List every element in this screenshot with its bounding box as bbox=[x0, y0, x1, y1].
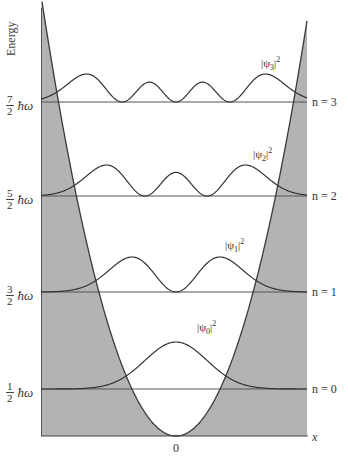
origin-label: 0 bbox=[173, 441, 179, 456]
psi0-label: |ψ0|2 bbox=[197, 319, 216, 336]
level-label-1-2: 12ħω bbox=[6, 381, 33, 404]
level-label-3-2: 32ħω bbox=[6, 284, 33, 307]
psi1-label: |ψ1|2 bbox=[225, 237, 244, 254]
psi2-label: |ψ2|2 bbox=[253, 146, 272, 163]
level-label-5-2: 52ħω bbox=[6, 188, 33, 211]
psi3-density-curve bbox=[41, 74, 307, 102]
n3-label: n = 3 bbox=[312, 95, 337, 110]
psi2-density-curve bbox=[41, 165, 307, 196]
n1-label: n = 1 bbox=[312, 285, 337, 300]
x-axis-label: x bbox=[312, 430, 317, 445]
oscillator-diagram bbox=[0, 0, 348, 460]
y-axis-label: Energy bbox=[4, 8, 18, 58]
n0-label: n = 0 bbox=[312, 382, 337, 397]
n2-label: n = 2 bbox=[312, 189, 337, 204]
psi3-label: |ψ3|2 bbox=[261, 55, 280, 72]
level-label-7-2: 72ħω bbox=[6, 94, 33, 117]
